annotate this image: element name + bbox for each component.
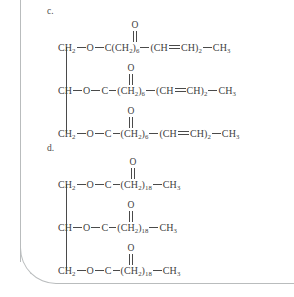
glycerol-carbon-sub: 2 bbox=[72, 47, 75, 54]
carbonyl-group: O bbox=[124, 243, 138, 265]
structure-c: c. O CH2OC(CH2)6(CHCH)2CH3 O CHOC(CH2)6(… bbox=[0, 6, 294, 149]
terminal-methyl-sub: 3 bbox=[236, 133, 239, 140]
alkene-repeat-count: 2 bbox=[207, 133, 210, 140]
bond-line bbox=[140, 47, 149, 48]
terminal-methyl-label: CH bbox=[218, 85, 232, 96]
alkyl-repeat-count: 6 bbox=[136, 47, 139, 54]
bond-line bbox=[153, 270, 162, 271]
glycerol-carbon-label: CH bbox=[58, 179, 72, 190]
alkyl-repeat-count: 18 bbox=[142, 227, 149, 234]
terminal-methyl-label: CH bbox=[163, 179, 177, 190]
chain-text: CH2OC(CH2)18CH3 bbox=[58, 265, 180, 280]
ester-oxygen-label: O bbox=[87, 42, 94, 53]
alkyl-segment-open: (CH bbox=[121, 179, 139, 190]
terminal-methyl-sub: 3 bbox=[177, 184, 180, 191]
bond-line bbox=[95, 270, 104, 271]
carbonyl-oxygen-label: O bbox=[124, 63, 138, 73]
chain-text: CH2OC(CH2)18CH3 bbox=[58, 179, 180, 194]
carbonyl-group: O bbox=[126, 157, 140, 179]
carbonyl-double-bond bbox=[124, 253, 138, 265]
bond-line bbox=[146, 90, 155, 91]
ester-oxygen-label: O bbox=[83, 222, 90, 233]
bond-line bbox=[149, 227, 158, 228]
alkyl-repeat-count: 6 bbox=[145, 133, 148, 140]
ester-oxygen-label: O bbox=[87, 179, 94, 190]
alkyl-segment-open: (CH bbox=[117, 222, 135, 233]
chain-text: CHOC(CH2)18CH3 bbox=[58, 222, 177, 237]
terminal-methyl-sub: 3 bbox=[177, 270, 180, 277]
ester-oxygen-label: O bbox=[83, 85, 90, 96]
alkene-segment-mid: CH bbox=[190, 128, 204, 139]
glycerol-carbon-sub: 2 bbox=[72, 133, 75, 140]
chain-text: CH2OC(CH2)6(CHCH)2CH3 bbox=[58, 42, 230, 57]
terminal-methyl-label: CH bbox=[222, 128, 236, 139]
carbonyl-group: O bbox=[124, 63, 138, 85]
alkyl-segment-open: (CH bbox=[112, 42, 130, 53]
carbonyl-group: O bbox=[124, 200, 138, 222]
terminal-methyl-sub: 3 bbox=[233, 90, 236, 97]
alkyl-segment-open: (CH bbox=[121, 265, 139, 276]
ester-oxygen-label: O bbox=[87, 128, 94, 139]
ester-chain-row: O CH2OC(CH2)18CH3 bbox=[0, 157, 294, 200]
chain-text: CHOC(CH2)6(CHCH)2CH3 bbox=[58, 85, 236, 100]
terminal-methyl-label: CH bbox=[213, 42, 227, 53]
carbonyl-carbon-label: C bbox=[105, 179, 112, 190]
alkyl-repeat-count: 18 bbox=[145, 270, 152, 277]
carbonyl-carbon-label: C bbox=[105, 265, 112, 276]
alkene-double-bond bbox=[178, 130, 189, 136]
glycerol-carbon-label: CH bbox=[58, 222, 72, 233]
carbonyl-oxygen-label: O bbox=[128, 20, 142, 30]
alkene-segment-mid: CH bbox=[187, 85, 201, 96]
alkene-double-bond bbox=[169, 44, 180, 50]
bond-line bbox=[109, 227, 116, 228]
alkene-segment-open: (CH bbox=[156, 85, 174, 96]
bond-line bbox=[95, 133, 104, 134]
structure-c-rows: O CH2OC(CH2)6(CHCH)2CH3 O CHOC(CH2)6(CHC… bbox=[0, 20, 294, 149]
carbonyl-double-bond bbox=[128, 30, 142, 42]
glycerol-carbon-label: CH bbox=[58, 85, 72, 96]
bond-line bbox=[208, 90, 217, 91]
carbonyl-carbon-label: C bbox=[105, 128, 112, 139]
structure-c-label: c. bbox=[47, 6, 54, 16]
bond-line bbox=[77, 133, 86, 134]
carbonyl-double-bond bbox=[124, 210, 138, 222]
carbonyl-double-bond bbox=[124, 73, 138, 85]
alkyl-repeat-count: 18 bbox=[145, 184, 152, 191]
bond-line bbox=[73, 227, 82, 228]
bond-line bbox=[91, 90, 100, 91]
bond-line bbox=[113, 133, 120, 134]
glycerol-carbon-label: CH bbox=[58, 265, 72, 276]
alkyl-repeat-count: 6 bbox=[142, 90, 145, 97]
carbonyl-carbon-label: C bbox=[101, 85, 108, 96]
alkene-segment-open: (CH bbox=[159, 128, 177, 139]
ester-oxygen-label: O bbox=[87, 265, 94, 276]
bond-line bbox=[95, 184, 104, 185]
bond-line bbox=[95, 47, 104, 48]
alkyl-segment-open: (CH bbox=[117, 85, 135, 96]
bond-line bbox=[212, 133, 221, 134]
ester-chain-row: O CHOC(CH2)18CH3 bbox=[0, 200, 294, 243]
bond-line bbox=[91, 227, 100, 228]
chain-text: CH2OC(CH2)6(CHCH)2CH3 bbox=[58, 128, 239, 143]
ester-chain-row: O CH2OC(CH2)6(CHCH)2CH3 bbox=[0, 20, 294, 63]
glycerol-carbon-sub: 2 bbox=[72, 184, 75, 191]
bond-line bbox=[113, 270, 120, 271]
bond-line bbox=[203, 47, 212, 48]
alkene-segment-open: (CH bbox=[150, 42, 168, 53]
alkene-repeat-count: 2 bbox=[204, 90, 207, 97]
terminal-methyl-sub: 3 bbox=[173, 227, 176, 234]
structure-d: d. O CH2OC(CH2)18CH3 O CHOC(CH2)18CH3 bbox=[0, 143, 294, 286]
ester-chain-row: O CHOC(CH2)6(CHCH)2CH3 bbox=[0, 63, 294, 106]
carbonyl-group: O bbox=[124, 106, 138, 128]
alkene-segment-mid: CH bbox=[181, 42, 195, 53]
bond-line bbox=[73, 90, 82, 91]
carbonyl-oxygen-label: O bbox=[124, 200, 138, 210]
bond-line bbox=[77, 47, 86, 48]
carbonyl-group: O bbox=[128, 20, 142, 42]
carbonyl-double-bond bbox=[126, 167, 140, 179]
bond-line bbox=[153, 184, 162, 185]
terminal-methyl-sub: 3 bbox=[227, 47, 230, 54]
carbonyl-oxygen-label: O bbox=[126, 157, 140, 167]
bond-line bbox=[109, 90, 116, 91]
bond-line bbox=[149, 133, 158, 134]
